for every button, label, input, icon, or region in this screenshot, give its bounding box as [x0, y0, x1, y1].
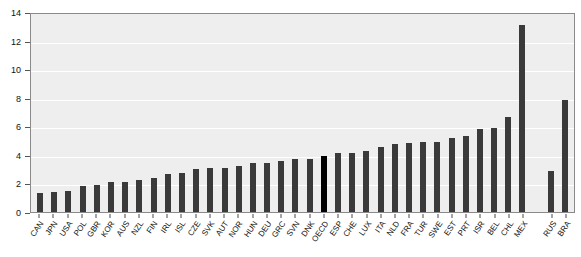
bar: [463, 136, 469, 212]
bar: [80, 186, 86, 212]
x-axis-tick-mark: [409, 214, 410, 218]
x-axis-tick-label: CHE: [343, 220, 359, 238]
x-axis-slot: ITA: [374, 214, 388, 257]
bar-item: [444, 14, 458, 212]
x-axis-tick-label: SWE: [427, 220, 444, 240]
x-axis-slot: SWE: [431, 214, 445, 257]
bar: [193, 169, 199, 212]
bar-item: [118, 14, 132, 212]
bar: [378, 147, 384, 212]
x-axis-tick-mark: [266, 214, 267, 218]
bar-item: [203, 14, 217, 212]
bar: [207, 168, 213, 212]
bar: [122, 182, 128, 212]
bar-item: [288, 14, 302, 212]
x-axis-tick-label: LUX: [358, 220, 373, 237]
x-axis-slot: SVK: [203, 214, 217, 257]
y-axis-tick-label: 0: [16, 209, 21, 218]
x-axis-tick-label: KOR: [100, 220, 117, 239]
y-axis-tick-label: 12: [11, 37, 21, 46]
y-axis-tick-label: 8: [16, 94, 21, 103]
bar: [108, 182, 114, 212]
bar-item: [558, 14, 572, 212]
y-axis-tick-label: 10: [11, 66, 21, 75]
x-axis-tick-label: JPN: [45, 220, 60, 237]
x-axis-tick-mark: [537, 214, 538, 218]
bar-item: [544, 14, 558, 212]
x-axis-tick-label: IRL: [160, 220, 174, 235]
x-axis-tick-label: BRA: [556, 220, 572, 238]
x-axis-slot: FIN: [146, 214, 160, 257]
x-axis-slot: SVN: [288, 214, 302, 257]
x-axis-tick-mark: [181, 214, 182, 218]
bar-item: [487, 14, 501, 212]
bar: [477, 129, 483, 212]
bar: [65, 191, 71, 212]
x-axis-tick-mark: [238, 214, 239, 218]
bar: [292, 159, 298, 212]
bar-item: [232, 14, 246, 212]
bar-item: [359, 14, 373, 212]
bar-item: [473, 14, 487, 212]
bar: [151, 178, 157, 212]
bar: [562, 100, 568, 212]
y-axis: 02468101214: [0, 0, 30, 220]
x-axis-tick-label: RUS: [542, 220, 558, 238]
bar-item: [416, 14, 430, 212]
x-axis-tick-mark: [81, 214, 82, 218]
bar: [449, 138, 455, 212]
x-axis-slot: FRA: [402, 214, 416, 257]
bar-item: [317, 14, 331, 212]
bar: [136, 180, 142, 212]
bar-item: [217, 14, 231, 212]
x-axis-tick-mark: [224, 214, 225, 218]
y-axis-tick-label: 2: [16, 180, 21, 189]
bar-item: [260, 14, 274, 212]
x-axis-slot: IRL: [160, 214, 174, 257]
x-axis-tick-mark: [195, 214, 196, 218]
bar: [491, 128, 497, 212]
x-axis-tick-mark: [167, 214, 168, 218]
x-axis-slot: ISR: [473, 214, 487, 257]
x-axis-tick-mark: [394, 214, 395, 218]
x-axis-tick-mark: [352, 214, 353, 218]
x-axis-tick-mark: [466, 214, 467, 218]
x-axis-slot: NLD: [388, 214, 402, 257]
x-axis-tick-label: MEX: [513, 220, 530, 239]
x-axis-slot: CHE: [345, 214, 359, 257]
x-axis-tick-mark: [67, 214, 68, 218]
bar: [335, 153, 341, 212]
bar: [420, 142, 426, 212]
x-axis-tick-label: AUS: [115, 220, 131, 238]
x-axis-slot: CAN: [32, 214, 46, 257]
x-axis-tick-label: CHL: [500, 220, 516, 238]
bar: [179, 173, 185, 212]
x-axis-tick-mark: [209, 214, 210, 218]
bar: [392, 144, 398, 212]
x-axis-slot: LUX: [359, 214, 373, 257]
x-axis-tick-label: NLD: [386, 220, 402, 238]
x-axis-tick-mark: [252, 214, 253, 218]
bar-series: [31, 14, 574, 212]
bar-item: [246, 14, 260, 212]
x-axis-tick-mark: [138, 214, 139, 218]
bar-item: [388, 14, 402, 212]
bar: [321, 156, 327, 212]
x-axis-tick-mark: [323, 214, 324, 218]
x-axis-slot: GRC: [274, 214, 288, 257]
bar-item: [430, 14, 444, 212]
y-axis-tick-label: 14: [11, 9, 21, 18]
bar: [250, 163, 256, 212]
x-axis-tick-label: ESP: [329, 220, 345, 238]
bar-item: [90, 14, 104, 212]
x-axis-slot: NOR: [231, 214, 245, 257]
x-axis-slot: RUS: [544, 214, 558, 257]
x-axis-tick-label: NOR: [228, 220, 245, 239]
bar: [165, 174, 171, 212]
x-axis-tick-label: BEL: [486, 220, 501, 237]
x-axis: CANJPNUSAPOLGBRKORAUSNZLFINIRLISLCZESVKA…: [30, 214, 575, 257]
x-axis-tick-mark: [281, 214, 282, 218]
x-axis-tick-mark: [124, 214, 125, 218]
x-axis-slot: USA: [60, 214, 74, 257]
bar-item: [33, 14, 47, 212]
